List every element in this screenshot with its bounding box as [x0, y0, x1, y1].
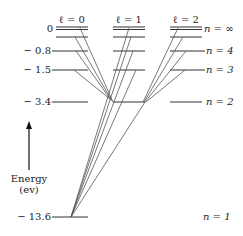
- energy-label-neg0.8: − 0.8: [0, 46, 51, 56]
- energy-diagram: [0, 0, 243, 236]
- column-header-l1: ℓ = 1: [113, 15, 145, 25]
- n-label-4: n = 4: [206, 46, 234, 56]
- energy-label-0: 0: [0, 24, 53, 34]
- column-header-l0: ℓ = 0: [56, 15, 88, 25]
- energy-label-neg3.4: − 3.4: [0, 97, 51, 107]
- n-label-1: n = 1: [203, 212, 231, 222]
- energy-label-neg1.5: − 1.5: [0, 65, 51, 75]
- n-label-2: n = 2: [206, 97, 234, 107]
- n-label-inf: n = ∞: [204, 24, 234, 34]
- energy-axis-label: Energy (ev): [8, 173, 50, 195]
- energy-label-neg13.6: − 13.6: [0, 212, 51, 222]
- n-label-3: n = 3: [206, 65, 234, 75]
- column-header-l2: ℓ = 2: [170, 15, 202, 25]
